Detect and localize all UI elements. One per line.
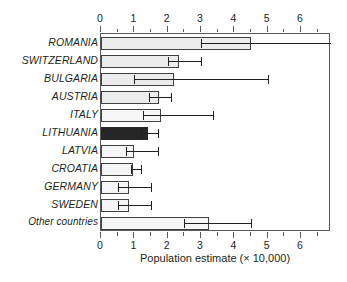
category-label-switzerland: SWITZERLAND [22, 55, 98, 66]
bar-row [101, 37, 331, 50]
tick-minor [217, 232, 218, 236]
category-label-romania: ROMANIA [48, 37, 98, 48]
error-bar-cap-high [268, 75, 269, 84]
x-tick-label: 1 [130, 240, 136, 251]
error-bar [184, 223, 251, 224]
bar-row [101, 127, 331, 140]
x-tick-label: 5 [264, 240, 270, 251]
x-tick-label: 6 [297, 240, 303, 251]
error-bar [141, 133, 158, 134]
plot-area [100, 33, 330, 231]
x-axis-title: Population estimate (× 10,000) [100, 253, 330, 264]
category-label-italy: ITALY [70, 109, 98, 120]
x-tick-label: 1 [130, 13, 136, 24]
tick-minor [117, 29, 118, 33]
error-bar-cap-low [118, 183, 119, 192]
error-bar-cap-low [134, 75, 135, 84]
x-tick-label: 0 [97, 240, 103, 251]
x-tick-label: 2 [164, 240, 170, 251]
tick-major [167, 26, 168, 32]
category-label-germany: GERMANY [44, 181, 98, 192]
tick-minor [250, 232, 251, 236]
x-tick-label: 3 [197, 240, 203, 251]
tick-minor [283, 29, 284, 33]
error-bar-cap-high [171, 93, 172, 102]
error-bar-cap-high [251, 219, 252, 228]
error-bar [126, 151, 158, 152]
error-bar [118, 187, 151, 188]
tick-minor [183, 29, 184, 33]
tick-major [167, 232, 168, 238]
bar-row [101, 73, 331, 86]
error-bar [131, 169, 141, 170]
error-bar [134, 79, 267, 80]
tick-minor [283, 232, 284, 236]
tick-minor [317, 29, 318, 33]
bar-row [101, 199, 331, 212]
error-bar-cap-high [201, 57, 202, 66]
x-tick-label: 5 [264, 13, 270, 24]
error-bar [149, 97, 171, 98]
bar-row [101, 55, 331, 68]
x-tick-label: 3 [197, 13, 203, 24]
bar-row [101, 91, 331, 104]
error-bar [118, 205, 151, 206]
tick-major [200, 232, 201, 238]
tick-minor [317, 232, 318, 236]
error-bar-cap-low [168, 57, 169, 66]
bar-croatia [101, 163, 133, 176]
x-tick-label: 4 [230, 240, 236, 251]
tick-major [300, 232, 301, 238]
tick-major [300, 26, 301, 32]
x-tick-label: 0 [97, 13, 103, 24]
error-bar [143, 115, 213, 116]
tick-minor [250, 29, 251, 33]
category-label-latvia: LATVIA [62, 145, 98, 156]
population-estimate-bar-chart: ROMANIASWITZERLANDBULGARIAAUSTRIAITALYLI… [0, 0, 347, 282]
category-label-bulgaria: BULGARIA [44, 73, 98, 84]
category-label-sweden: SWEDEN [51, 199, 98, 210]
category-label-lithuania: LITHUANIA [42, 127, 98, 138]
x-tick-label: 2 [164, 13, 170, 24]
error-bar-cap-high [158, 129, 159, 138]
tick-major [267, 232, 268, 238]
error-bar-cap-low [149, 93, 150, 102]
tick-minor [183, 232, 184, 236]
tick-major [200, 26, 201, 32]
x-tick-label: 6 [297, 13, 303, 24]
error-bar-cap-high [151, 183, 152, 192]
category-label-other-countries: Other countries [28, 217, 98, 227]
error-bar [168, 61, 201, 62]
tick-major [100, 26, 101, 32]
x-tick-label: 4 [230, 13, 236, 24]
error-bar-cap-low [118, 201, 119, 210]
tick-major [133, 26, 134, 32]
bar-row [101, 109, 331, 122]
bar-row [101, 145, 331, 158]
tick-minor [150, 29, 151, 33]
tick-minor [150, 232, 151, 236]
error-bar-cap-high [151, 201, 152, 210]
error-bar-cap-low [131, 165, 132, 174]
bar-row [101, 217, 331, 230]
error-bar-cap-low [143, 111, 144, 120]
category-label-austria: AUSTRIA [52, 91, 98, 102]
bar-row [101, 181, 331, 194]
error-bar-cap-low [141, 129, 142, 138]
tick-major [233, 232, 234, 238]
tick-minor [217, 29, 218, 33]
tick-major [267, 26, 268, 32]
error-bar [201, 43, 331, 44]
error-bar-cap-high [141, 165, 142, 174]
error-bar-cap-low [126, 147, 127, 156]
tick-major [233, 26, 234, 32]
tick-minor [117, 232, 118, 236]
error-bar-cap-high [213, 111, 214, 120]
error-bar-cap-low [184, 219, 185, 228]
category-label-croatia: CROATIA [51, 163, 98, 174]
error-bar-cap-high [158, 147, 159, 156]
tick-major [100, 232, 101, 238]
error-bar-cap-low [201, 39, 202, 48]
tick-major [133, 232, 134, 238]
bar-row [101, 163, 331, 176]
